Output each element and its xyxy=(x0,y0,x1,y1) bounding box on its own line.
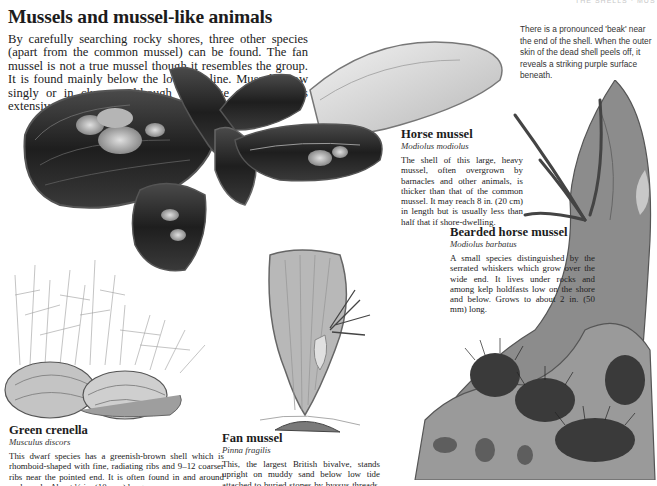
entry-latin-name: Musculus discors xyxy=(9,437,224,448)
entry-horse-mussel: Horse mussel Modiolus modiolus The shell… xyxy=(401,127,523,227)
entry-title: Horse mussel xyxy=(401,127,523,141)
beak-caption-note: There is a pronounced 'beak' near the en… xyxy=(520,24,655,82)
entry-latin-name: Pinna fragilis xyxy=(222,445,380,456)
running-head: THE SHELLS · MUSSELS xyxy=(575,0,655,3)
entry-description: This, the largest British bivalve, stand… xyxy=(222,459,380,486)
entry-description: The shell of this large, heavy mussel, o… xyxy=(401,155,523,227)
entry-latin-name: Modiolus barbatus xyxy=(450,239,595,250)
entry-description: This dwarf species has a greenish-brown … xyxy=(9,451,224,486)
entry-title: Bearded horse mussel xyxy=(450,225,595,239)
entry-title: Fan mussel xyxy=(222,431,380,445)
entry-latin-name: Modiolus modiolus xyxy=(401,141,523,152)
entry-bearded-horse-mussel: Bearded horse mussel Modiolus barbatus A… xyxy=(450,225,595,315)
entry-green-crenella: Green crenella Musculus discors This dwa… xyxy=(9,423,224,486)
green-crenella-illustration xyxy=(0,255,230,420)
page-title: Mussels and mussel-like animals xyxy=(8,6,272,28)
entry-description: A small species distinguished by the ser… xyxy=(450,253,595,315)
entry-title: Green crenella xyxy=(9,423,224,437)
fan-mussel-illustration xyxy=(230,240,380,435)
entry-fan-mussel: Fan mussel Pinna fragilis This, the larg… xyxy=(222,431,380,486)
